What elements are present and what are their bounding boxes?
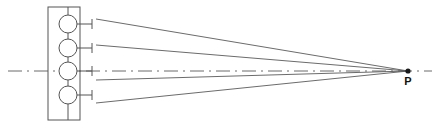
array-element-3-group xyxy=(59,62,92,80)
array-element-3 xyxy=(59,62,77,80)
ray-from-element-1 xyxy=(96,19,408,71)
array-element-1 xyxy=(59,15,77,33)
array-element-4 xyxy=(59,86,77,104)
array-element-2 xyxy=(59,39,77,57)
antenna-beam-diagram: P xyxy=(0,0,448,134)
array-element-2-group xyxy=(59,39,92,57)
focal-point-dot xyxy=(405,68,410,73)
array-element-4-group xyxy=(59,86,92,104)
diagram-canvas: P xyxy=(0,0,448,134)
ray-from-element-2 xyxy=(96,45,408,71)
array-element-1-group xyxy=(59,15,92,33)
focal-point-label: P xyxy=(404,75,411,87)
